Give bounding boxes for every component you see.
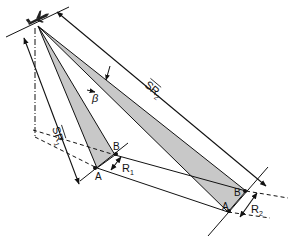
point-b-far [243,189,247,193]
a-far-label: A [222,201,229,212]
svg-text:R: R [122,162,130,174]
r2-label: R 2 [251,203,263,217]
sr1-label: SR 1 [48,125,67,147]
beta-arrow-upper [106,66,110,80]
sr2-label: SR 2 [141,78,165,101]
far-beam [38,26,246,212]
svg-text:R: R [251,203,259,215]
svg-text:2: 2 [259,210,263,217]
point-b-near [114,152,118,156]
b-near-label: B [113,141,120,152]
near-beam [38,26,115,168]
flight-path-line [6,7,69,37]
svg-text:1: 1 [53,141,61,147]
a-near-label: A [95,171,102,182]
svg-text:1: 1 [130,169,134,176]
slant-range-diagram: SR 1 SR 2 β A B A B R 1 R 2 [0,0,297,242]
r1-arrow [111,157,121,170]
sr2-arrow [57,12,266,186]
r1-label: R 1 [122,162,134,176]
sr1-arrow [24,38,79,184]
aircraft-icon [25,8,52,28]
point-a-near [93,166,97,170]
ground-dashed-far-b [246,191,288,198]
b-far-label: B [234,187,241,198]
beta-label: β [91,92,99,104]
svg-text:SR: SR [50,125,66,143]
ground-dashed-far-a [228,212,270,218]
